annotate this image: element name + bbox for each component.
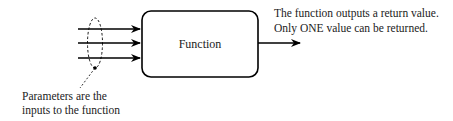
function-label: Function xyxy=(142,11,258,77)
leader-line xyxy=(80,68,95,88)
output-note-line-1: The function outputs a return value. xyxy=(274,6,439,20)
output-note-line-2: Only ONE value can be returned. xyxy=(274,21,428,35)
parameters-note-line-2: inputs to the function xyxy=(22,103,120,117)
parameters-note-line-1: Parameters are the xyxy=(22,89,107,103)
